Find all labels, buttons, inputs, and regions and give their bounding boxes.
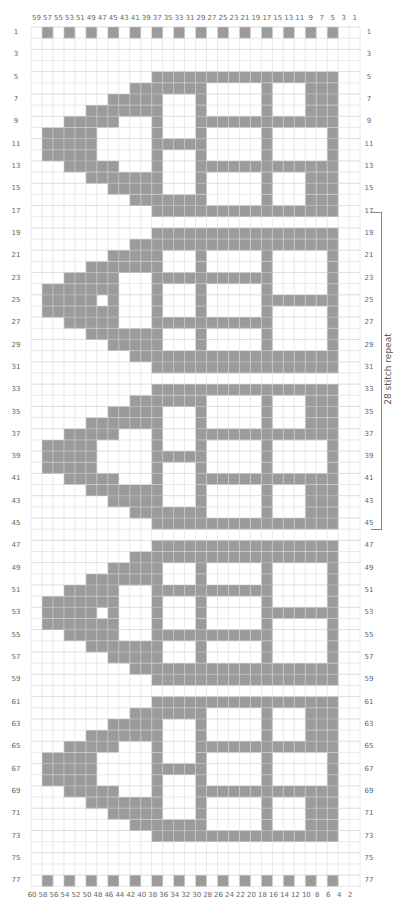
shaded-cell [196, 250, 207, 261]
shaded-cell [42, 306, 53, 317]
shaded-cell [163, 674, 174, 685]
shaded-cell [294, 239, 305, 250]
shaded-cell [64, 775, 75, 786]
shaded-cell [141, 485, 152, 496]
shaded-cell [108, 797, 119, 808]
shaded-cell [42, 27, 53, 38]
shaded-cell [53, 596, 64, 607]
shaded-cell [185, 552, 196, 563]
shaded-cell [86, 574, 97, 585]
shaded-cell [196, 406, 207, 417]
shaded-cell [152, 775, 163, 786]
shaded-cell [272, 72, 283, 83]
shaded-cell [250, 540, 261, 551]
shaded-cell [185, 697, 196, 708]
shaded-cell [64, 462, 75, 473]
shaded-cell [196, 306, 207, 317]
shaded-cell [86, 306, 97, 317]
shaded-cell [305, 540, 316, 551]
shaded-cell [86, 116, 97, 127]
shaded-cell [86, 485, 97, 496]
shaded-cell [239, 540, 250, 551]
shaded-cell [152, 239, 163, 250]
shaded-cell [196, 295, 207, 306]
shaded-cell [196, 630, 207, 641]
shaded-cell [196, 351, 207, 362]
shaded-cell [239, 161, 250, 172]
shaded-cell [316, 730, 327, 741]
shaded-cell [196, 697, 207, 708]
shaded-cell [75, 306, 86, 317]
shaded-cell [283, 674, 294, 685]
shaded-cell [217, 351, 228, 362]
shaded-cell [108, 317, 119, 328]
row-label-right: 65 [361, 742, 377, 751]
shaded-cell [130, 172, 141, 183]
shaded-cell [305, 429, 316, 440]
shaded-cell [272, 540, 283, 551]
shaded-cell [196, 228, 207, 239]
shaded-cell [261, 250, 272, 261]
shaded-cell [141, 105, 152, 116]
shaded-cell [217, 273, 228, 284]
shaded-cell [228, 116, 239, 127]
shaded-cell [327, 406, 338, 417]
shaded-cell [174, 585, 185, 596]
shaded-cell [207, 674, 218, 685]
shaded-cell [42, 139, 53, 150]
shaded-cell [261, 194, 272, 205]
shaded-cell [141, 94, 152, 105]
shaded-cell [196, 94, 207, 105]
shaded-cell [327, 630, 338, 641]
shaded-cell [261, 730, 272, 741]
shaded-cell [196, 708, 207, 719]
shaded-cell [152, 328, 163, 339]
shaded-cell [327, 451, 338, 462]
shaded-cell [250, 674, 261, 685]
shaded-cell [283, 741, 294, 752]
shaded-cell [316, 518, 327, 529]
shaded-cell [272, 663, 283, 674]
shaded-cell [108, 116, 119, 127]
shaded-cell [174, 317, 185, 328]
shaded-cell [305, 183, 316, 194]
shaded-cell [196, 72, 207, 83]
shaded-cell [228, 429, 239, 440]
repeat-bracket [371, 212, 382, 529]
shaded-cell [152, 574, 163, 585]
shaded-cell [217, 518, 228, 529]
shaded-cell [64, 317, 75, 328]
shaded-cell [316, 206, 327, 217]
shaded-cell [207, 630, 218, 641]
shaded-cell [239, 630, 250, 641]
shaded-cell [75, 127, 86, 138]
shaded-cell [163, 663, 174, 674]
shaded-cell [305, 786, 316, 797]
shaded-cell [294, 674, 305, 685]
shaded-cell [86, 27, 97, 38]
shaded-cell [174, 819, 185, 830]
shaded-cell [228, 384, 239, 395]
shaded-cell [53, 607, 64, 618]
shaded-cell [250, 351, 261, 362]
shaded-cell [141, 194, 152, 205]
shaded-cell [239, 116, 250, 127]
shaded-cell [108, 261, 119, 272]
shaded-cell [327, 440, 338, 451]
shaded-cell [207, 239, 218, 250]
shaded-cell [261, 172, 272, 183]
shaded-cell [108, 719, 119, 730]
shaded-cell [75, 161, 86, 172]
shaded-cell [228, 351, 239, 362]
shaded-cell [327, 228, 338, 239]
shaded-cell [327, 83, 338, 94]
shaded-cell [239, 429, 250, 440]
shaded-cell [207, 72, 218, 83]
row-label-left: 71 [8, 809, 24, 818]
shaded-cell [174, 194, 185, 205]
shaded-cell [283, 239, 294, 250]
shaded-cell [261, 105, 272, 116]
shaded-cell [152, 451, 163, 462]
shaded-cell [196, 496, 207, 507]
shaded-cell [141, 507, 152, 518]
